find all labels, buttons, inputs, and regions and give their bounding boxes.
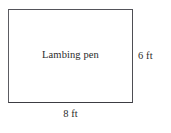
diagram-canvas: Lambing pen 6 ft 8 ft: [0, 0, 171, 133]
height-dimension-label: 6 ft: [138, 49, 153, 62]
width-dimension-label: 8 ft: [8, 107, 133, 120]
pen-interior-label: Lambing pen: [8, 48, 133, 61]
